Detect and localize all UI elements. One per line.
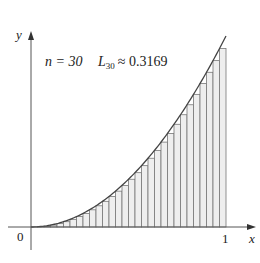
rectangle [90,210,97,227]
rectangle [103,201,110,227]
approx-value-text: ≈ 0.3169 [118,54,168,69]
n-value-text: n = 30 [45,54,82,69]
L-symbol: L [97,54,106,69]
rectangle [213,61,220,227]
y-axis-arrowhead-icon [28,31,34,40]
rectangle [70,219,77,227]
rectangle [207,72,214,227]
L-subscript: 30 [106,61,116,71]
rectangle [129,179,136,227]
rectangle [96,206,103,227]
x-axis-arrowhead-icon [247,224,256,230]
origin-label: 0 [17,229,24,244]
rectangle [168,133,175,227]
rectangle [181,115,188,227]
rectangle [109,196,116,227]
rectangle [220,49,227,227]
rectangle [200,84,207,227]
rectangle [83,213,90,227]
rectangle [148,158,155,227]
left-endpoint-rectangles [38,49,227,227]
rectangle [116,191,123,227]
rectangle [77,217,84,227]
rectangle [135,173,142,227]
rectangle [122,185,129,227]
rectangle [174,124,181,227]
rectangle [194,94,201,227]
x-axis-label: x [248,231,255,246]
rectangle [161,142,168,227]
x-tick-1-label: 1 [222,231,229,246]
rectangle [155,150,162,227]
rectangle [57,224,64,227]
riemann-sum-figure: y x 0 1 n = 30 L30≈ 0.3169 [0,0,260,263]
rectangle [64,222,71,227]
annotation: n = 30 L30≈ 0.3169 [45,54,167,71]
y-axis-label: y [14,27,22,42]
rectangle [187,105,194,227]
rectangle [142,166,149,227]
